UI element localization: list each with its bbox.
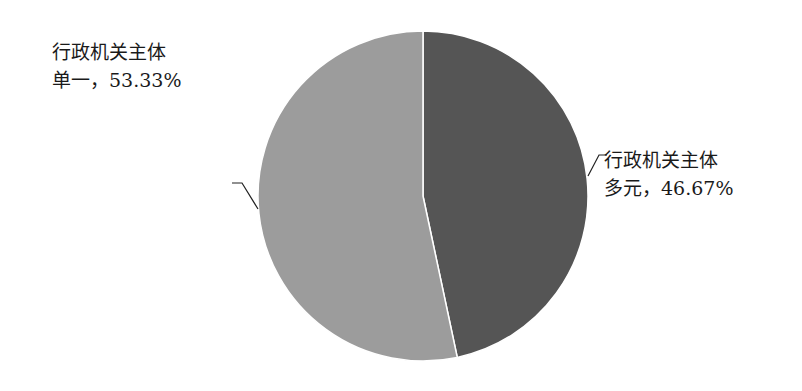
slice-multiple [423, 31, 588, 357]
label-multiple: 行政机关主体 多元，46.67% [604, 146, 733, 202]
label-single-line1: 行政机关主体 [52, 38, 181, 66]
label-multiple-line1: 行政机关主体 [604, 146, 733, 174]
label-single-line2: 单一，53.33% [52, 66, 181, 94]
leader-line-single [232, 183, 258, 209]
label-multiple-line2: 多元，46.67% [604, 174, 733, 202]
label-single: 行政机关主体 单一，53.33% [52, 38, 181, 94]
